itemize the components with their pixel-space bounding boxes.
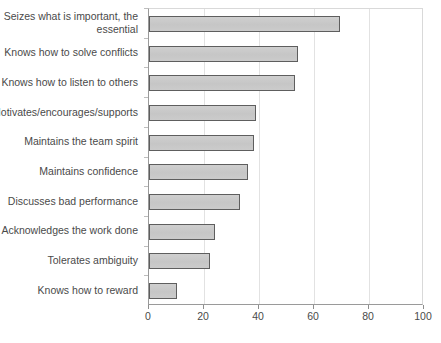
bar-row [149, 98, 256, 128]
bar[interactable] [149, 283, 177, 299]
y-tick [144, 127, 148, 128]
category-label: Knows how to reward [0, 275, 143, 305]
bar[interactable] [149, 135, 254, 151]
x-tick-mark-0 [148, 305, 149, 309]
category-label: Knows how to listen to others [0, 67, 143, 97]
bar-row [149, 39, 298, 69]
y-tick [144, 8, 148, 9]
bar-row [149, 187, 240, 217]
bar[interactable] [149, 105, 256, 121]
y-tick [144, 186, 148, 187]
category-label: Motivates/encourages/supports [0, 97, 143, 127]
bar[interactable] [149, 75, 295, 91]
horizontal-bar-chart: Seizes what is important, theessentialKn… [0, 0, 441, 343]
category-label: Knows how to solve conflicts [0, 38, 143, 68]
bar-row [149, 68, 295, 98]
y-tick [144, 216, 148, 217]
x-tick-mark-40 [258, 305, 259, 309]
x-tick-label-40: 40 [252, 310, 264, 322]
plot-area [148, 8, 423, 305]
x-tick-label-60: 60 [307, 310, 319, 322]
category-label: Seizes what is important, theessential [0, 8, 143, 38]
category-axis-labels: Seizes what is important, theessentialKn… [0, 8, 143, 305]
y-tick [144, 275, 148, 276]
x-tick-label-0: 0 [145, 310, 151, 322]
x-tick-label-80: 80 [362, 310, 374, 322]
category-label: Tolerates ambiguity [0, 246, 143, 276]
bar[interactable] [149, 224, 215, 240]
bar[interactable] [149, 164, 248, 180]
y-tick [144, 97, 148, 98]
bar-row [149, 247, 210, 277]
x-tick-label-100: 100 [414, 310, 432, 322]
bar[interactable] [149, 194, 240, 210]
bar-series [149, 9, 422, 304]
category-label: Discusses bad performance [0, 186, 143, 216]
category-label: Maintains confidence [0, 157, 143, 187]
y-tick [144, 67, 148, 68]
category-label: Acknowledges the work done [0, 216, 143, 246]
y-tick [144, 38, 148, 39]
bar-row [149, 217, 215, 247]
category-label: Maintains the team spirit [0, 127, 143, 157]
x-tick-label-20: 20 [197, 310, 209, 322]
bar[interactable] [149, 46, 298, 62]
bar[interactable] [149, 16, 340, 32]
x-tick-mark-20 [203, 305, 204, 309]
y-tick [144, 157, 148, 158]
x-tick-mark-80 [368, 305, 369, 309]
x-tick-mark-100 [423, 305, 424, 309]
bar-row [149, 128, 254, 158]
bar-row [149, 276, 177, 306]
y-tick [144, 246, 148, 247]
x-tick-mark-60 [313, 305, 314, 309]
bar[interactable] [149, 253, 210, 269]
bar-row [149, 158, 248, 188]
bar-row [149, 9, 340, 39]
